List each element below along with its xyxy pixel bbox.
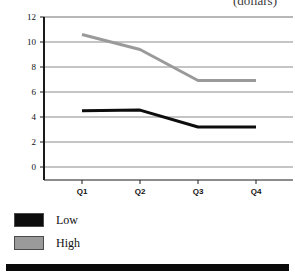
y-tick-label: 6 — [32, 87, 37, 97]
x-tick-label: Q1 — [77, 187, 88, 196]
x-axis-labels: Q1 Q2 Q3 Q4 — [77, 187, 262, 196]
series-line-low — [82, 110, 256, 127]
legend-label-high: High — [56, 237, 80, 249]
legend-swatch-high — [14, 236, 44, 250]
y-tick-label: 4 — [32, 112, 37, 122]
legend-label-low: Low — [56, 214, 78, 226]
line-chart-svg: 12 10 8 6 4 2 0 Q1 Q2 Q3 Q4 — [0, 12, 295, 197]
legend-swatch-low — [14, 213, 44, 227]
legend-item-low: Low — [14, 210, 154, 230]
y-tick-label: 12 — [27, 12, 36, 22]
x-tick-label: Q2 — [135, 187, 146, 196]
y-tick-label: 10 — [27, 37, 37, 47]
gridlines — [44, 17, 293, 167]
chart-title: (dollars) — [0, 0, 295, 9]
x-tick-label: Q3 — [193, 187, 204, 196]
bottom-divider-rule — [6, 264, 289, 271]
x-tick-label: Q4 — [251, 187, 262, 196]
x-axis-ticks — [82, 180, 256, 184]
y-axis-labels: 12 10 8 6 4 2 0 — [27, 12, 37, 172]
legend-item-high: High — [14, 233, 154, 253]
y-tick-label: 0 — [32, 162, 37, 172]
y-tick-label: 8 — [32, 62, 37, 72]
chart-legend: Low High — [14, 210, 154, 256]
series-line-high — [82, 35, 256, 81]
chart-plot-area: 12 10 8 6 4 2 0 Q1 Q2 Q3 Q4 — [0, 12, 295, 197]
y-tick-label: 2 — [32, 137, 37, 147]
